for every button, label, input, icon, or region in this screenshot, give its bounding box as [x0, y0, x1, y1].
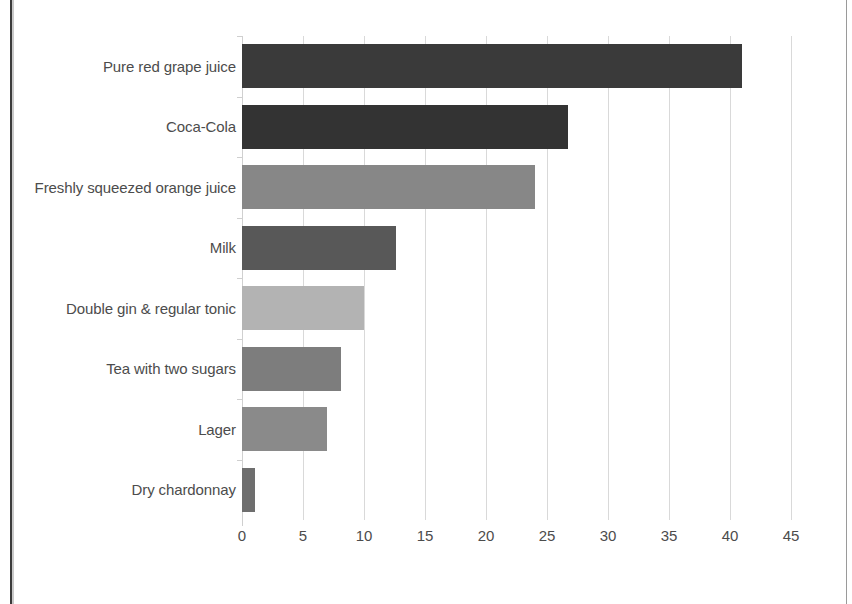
category-tick — [237, 278, 242, 279]
x-tick-label: 45 — [783, 527, 800, 544]
category-tick — [237, 36, 242, 37]
category-tick — [237, 218, 242, 219]
bar-row — [242, 36, 791, 97]
x-tick-label: 40 — [722, 527, 739, 544]
bar-row — [242, 460, 791, 521]
category-label: Coca-Cola — [20, 97, 236, 158]
x-tick-label: 0 — [238, 527, 246, 544]
bar-dry-chardonnay[interactable] — [242, 468, 255, 512]
bars-layer — [242, 36, 791, 520]
category-label: Pure red grape juice — [20, 36, 236, 97]
bar-double-gin-regular-tonic[interactable] — [242, 286, 364, 330]
x-tick-label: 15 — [417, 527, 434, 544]
bar-pure-red-grape-juice[interactable] — [242, 44, 742, 88]
category-tick — [237, 339, 242, 340]
x-axis-tick-labels: 051015202530354045 — [242, 527, 791, 551]
x-axis-origin-tick — [242, 520, 243, 526]
category-label: Milk — [20, 218, 236, 279]
bar-freshly-squeezed-orange-juice[interactable] — [242, 165, 535, 209]
x-tick-label: 30 — [600, 527, 617, 544]
bar-chart: Pure red grape juiceCoca-ColaFreshly squ… — [0, 0, 852, 604]
x-tick-label: 10 — [356, 527, 373, 544]
bar-milk[interactable] — [242, 226, 396, 270]
x-tick-label: 20 — [478, 527, 495, 544]
category-tick — [237, 460, 242, 461]
category-label: Double gin & regular tonic — [20, 278, 236, 339]
category-tick — [237, 157, 242, 158]
bar-row — [242, 399, 791, 460]
x-tick-label: 25 — [539, 527, 556, 544]
bar-row — [242, 218, 791, 279]
bar-row — [242, 339, 791, 400]
plot-area — [242, 36, 791, 520]
bar-tea-with-two-sugars[interactable] — [242, 347, 341, 391]
category-tick — [237, 399, 242, 400]
category-label: Dry chardonnay — [20, 460, 236, 521]
bar-row — [242, 278, 791, 339]
bar-row — [242, 157, 791, 218]
category-label: Lager — [20, 399, 236, 460]
category-axis-labels: Pure red grape juiceCoca-ColaFreshly squ… — [20, 36, 236, 520]
gridline-45 — [791, 36, 792, 520]
category-label: Tea with two sugars — [20, 339, 236, 400]
bar-lager[interactable] — [242, 407, 327, 451]
bar-coca-cola[interactable] — [242, 105, 568, 149]
chart-page: Pure red grape juiceCoca-ColaFreshly squ… — [0, 0, 852, 604]
x-tick-label: 5 — [299, 527, 307, 544]
category-label: Freshly squeezed orange juice — [20, 157, 236, 218]
x-tick-label: 35 — [661, 527, 678, 544]
bar-row — [242, 97, 791, 158]
category-tick — [237, 97, 242, 98]
